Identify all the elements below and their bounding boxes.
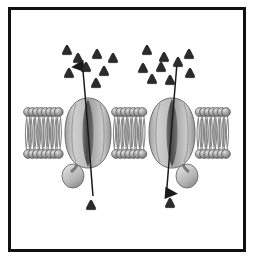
molecule-particle xyxy=(91,78,101,88)
molecule-particle xyxy=(86,200,96,210)
membrane-transport-figure xyxy=(0,0,254,260)
phospholipid-tail xyxy=(59,119,60,150)
phospholipid-head xyxy=(222,108,231,117)
molecule-particle xyxy=(73,53,83,63)
diagram-canvas xyxy=(0,0,254,260)
molecule-particle xyxy=(81,62,91,72)
phospholipid-head xyxy=(54,150,63,159)
molecule-particle xyxy=(108,53,118,63)
molecule-particle xyxy=(142,45,152,55)
molecule-particle xyxy=(92,49,102,59)
protein-lobe-left xyxy=(62,164,84,188)
phospholipid-tail xyxy=(226,119,227,150)
protein-lobe-right xyxy=(176,164,198,188)
phospholipid-heads-inner-leaflet xyxy=(24,150,231,159)
molecule-particle xyxy=(173,57,183,67)
molecule-particle xyxy=(165,75,175,85)
phospholipid-heads-outer-leaflet xyxy=(24,108,231,117)
molecule-particle xyxy=(62,45,72,55)
phospholipid-tail xyxy=(25,119,26,150)
phospholipid-head xyxy=(54,108,63,117)
molecule-particle xyxy=(147,74,157,84)
phospholipid-tail xyxy=(113,119,114,150)
molecule-particle xyxy=(64,68,74,78)
molecule-particle xyxy=(159,52,169,62)
molecule-particle xyxy=(185,68,195,78)
phospholipid-tail xyxy=(143,119,144,150)
molecule-particle xyxy=(165,198,175,208)
molecule-particle xyxy=(138,63,148,73)
phospholipid-tail xyxy=(197,119,198,150)
molecule-particle xyxy=(156,62,166,72)
phospholipid-head xyxy=(222,150,231,159)
molecule-particle xyxy=(99,66,109,76)
molecule-particle xyxy=(184,49,194,59)
phospholipid-head xyxy=(138,108,147,117)
phospholipid-head xyxy=(138,150,147,159)
phospholipid-tails xyxy=(25,116,228,150)
